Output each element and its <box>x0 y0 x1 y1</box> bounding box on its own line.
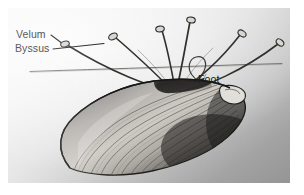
illustration-image: Velum Byssus Foot <box>8 8 290 183</box>
label-foot: Foot <box>198 74 219 85</box>
label-byssus: Byssus <box>15 43 49 54</box>
mussel-illustration-artwork <box>8 8 290 183</box>
scan-grain-overlay <box>8 8 290 183</box>
label-velum: Velum <box>16 29 46 40</box>
figure-plate: Velum Byssus Foot <box>0 0 304 195</box>
